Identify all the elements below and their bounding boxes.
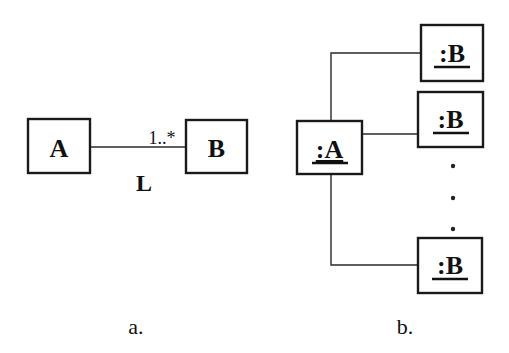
object-box-b-3: :B [418,238,482,293]
class-box-a: A [28,119,90,173]
class-diagram-a: A B 1..* L a. [28,119,247,339]
ellipsis-dot [451,164,455,168]
class-b-label: B [208,134,225,163]
multiplicity-label: 1..* [149,128,176,148]
link-to-object-b-3 [331,174,418,265]
object-box-b-1: :B [421,25,483,81]
uml-diagram-canvas: A B 1..* L a. :A :B :B [0,0,509,353]
object-diagram-b: :A :B :B :B b. [297,25,483,339]
association-name-label: L [136,170,152,196]
ellipsis-dots [451,164,455,231]
class-box-b: B [186,120,247,173]
ellipsis-dot [451,227,455,231]
link-to-object-b-1 [331,53,421,121]
class-a-label: A [50,134,69,163]
object-b-1-label: :B [439,39,465,68]
object-a-label: :A [316,135,344,164]
object-b-2-label: :B [438,105,464,134]
object-box-b-2: :B [418,92,483,147]
object-box-a: :A [297,121,362,174]
caption-b: b. [397,314,414,339]
ellipsis-dot [451,196,455,200]
caption-a: a. [128,314,143,339]
object-b-3-label: :B [437,251,463,280]
